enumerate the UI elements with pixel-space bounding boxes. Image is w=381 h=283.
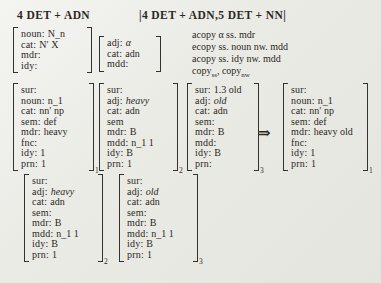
avm-subscript: 1 [369, 166, 373, 175]
avm-det-pattern: noun:N_ncat:N′ Xmdr:idy: [13, 27, 92, 73]
avm-feature-lines: sur:noun:n_1cat:nn′ npsem:defmdr:heavyfn… [18, 83, 89, 171]
right-bracket [89, 83, 94, 171]
avm-feature-lines: adj:αcat:adnmdd: [104, 36, 156, 72]
rule-operation-copy-line: copyss, copynw [192, 65, 288, 81]
right-bracket [87, 27, 92, 73]
right-bracket [173, 83, 178, 171]
rule-operations-block: acopy α ss. mdr ecopy ss. noun nw. mdd a… [192, 29, 288, 81]
document-page: 4 DET + ADN |4 DET + ADN,5 DET + NN| aco… [0, 0, 381, 283]
avm-feature-lines: sur:noun:n_1cat:nn′ npsem:defmdr:heavy o… [288, 83, 363, 171]
rule-operation-line: acopy α ss. mdr [192, 29, 288, 41]
rule-operation-line: ecopy ss. noun nw. mdd [192, 41, 288, 53]
avm-feature-lines: sur:1.3 oldadj:oldcat:adnsem:mdr:Bmdd:id… [192, 83, 254, 171]
avm-adj-heavy-input-2: sur:adj:heavycat:adnsemmdr:Bmdd:n_1 1idy… [99, 83, 182, 171]
copy-op-2-subscript: nw [241, 71, 250, 79]
avm-noun-input-1: sur:noun:n_1cat:nn′ npsem:defmdr:heavyfn… [13, 83, 98, 171]
avm-subscript: 3 [260, 166, 264, 175]
avm-subscript: 2 [104, 257, 108, 266]
avm-feature-line: prn:1 [21, 159, 85, 170]
avm-adj-old-input-3: sur:1.3 oldadj:oldcat:adnsem:mdr:Bmdd:id… [187, 83, 263, 171]
right-bracket [98, 174, 103, 262]
avm-feature-line: mdd: [107, 59, 152, 70]
avm-feature-lines: sur:adj:heavycat:adnsem:mdr:Bmdd:n_1 1id… [29, 174, 98, 262]
avm-feature-line: prn:1 [291, 159, 359, 170]
avm-feature-lines: sur:adj:heavycat:adnsemmdr:Bmdd:n_1 1idy… [104, 83, 173, 171]
avm-subscript: 3 [199, 257, 203, 266]
copy-op-1: copy [192, 65, 211, 76]
right-bracket [363, 83, 368, 171]
avm-feature-line: idy: [21, 61, 83, 72]
avm-feature-line: prn:1 [32, 250, 94, 261]
rule-operation-line: acopy ss. idy nw. mdd [192, 53, 288, 65]
avm-noun-result-1: sur:noun:n_1cat:nn′ npsem:defmdr:heavy o… [283, 83, 372, 171]
rule-package-heading: |4 DET + ADN,5 DET + NN| [139, 9, 286, 21]
avm-feature-lines: sur:adj:oldcat:adnsem:mdr:Bmdd:n_1 1idy:… [124, 174, 193, 262]
right-bracket [193, 174, 198, 262]
avm-adj-old-result-3: sur:adj:oldcat:adnsem:mdr:Bmdd:n_1 1idy:… [119, 174, 202, 262]
avm-feature-line: prn:1 [127, 250, 189, 261]
avm-feature-lines: noun:N_ncat:N′ Xmdr:idy: [18, 27, 87, 73]
avm-feature-line: prn:1 [107, 159, 169, 170]
double-arrow-icon: ⇒ [258, 124, 271, 142]
avm-adj-heavy-result-2: sur:adj:heavycat:adnsem:mdr:Bmdd:n_1 1id… [24, 174, 107, 262]
rule-number-heading: 4 DET + ADN [17, 9, 90, 21]
copy-op-2: copy [222, 65, 241, 76]
avm-feature-line: prn: [195, 159, 250, 170]
avm-adn-pattern: adj:αcat:adnmdd: [99, 36, 161, 72]
right-bracket [156, 36, 161, 72]
